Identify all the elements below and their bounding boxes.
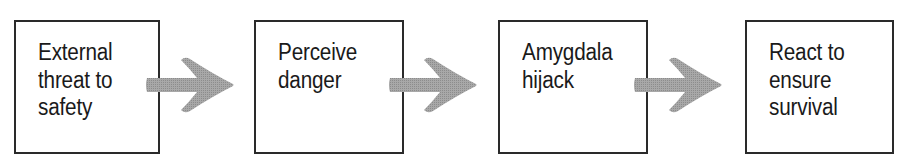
step-box-external-threat: External threat to safety: [14, 20, 160, 154]
flowchart: External threat to safety Perceive dange…: [0, 0, 901, 159]
step-box-react-to-ensure-survival: React to ensure survival: [745, 20, 894, 154]
arrow-right-icon: [633, 56, 725, 114]
step-label: React to ensure survival: [769, 39, 845, 122]
step-label: Perceive danger: [278, 39, 357, 94]
step-label: Amygdala hijack: [522, 39, 613, 94]
step-label: External threat to safety: [38, 39, 113, 122]
arrow-right-icon: [388, 56, 480, 114]
step-box-amygdala-hijack: Amygdala hijack: [498, 20, 648, 154]
step-box-perceive-danger: Perceive danger: [254, 20, 404, 154]
arrow-right-icon: [145, 56, 237, 114]
